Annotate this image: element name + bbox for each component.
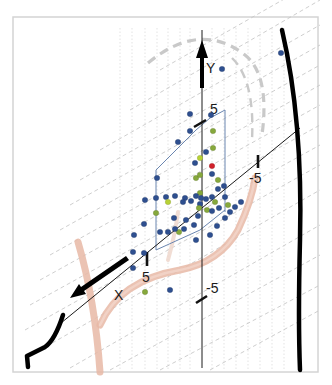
data-point	[172, 226, 178, 232]
data-point	[215, 177, 221, 183]
data-point	[196, 205, 202, 211]
data-point	[212, 199, 218, 205]
data-point	[141, 221, 147, 227]
data-point	[278, 50, 284, 56]
data-point	[157, 229, 163, 235]
data-point	[198, 195, 204, 201]
data-point	[209, 208, 215, 214]
data-point	[187, 128, 193, 134]
data-point	[183, 217, 189, 223]
data-point	[227, 209, 233, 215]
data-point	[225, 202, 231, 208]
data-point	[215, 186, 221, 192]
data-point	[153, 210, 159, 216]
data-point	[193, 237, 199, 243]
data-point	[222, 194, 228, 200]
x-tick-label-neg5: -5	[249, 170, 262, 186]
data-point	[180, 199, 186, 205]
data-point	[221, 183, 227, 189]
y-axis-label: Y	[206, 60, 216, 76]
data-point	[219, 66, 225, 72]
data-point	[172, 193, 178, 199]
data-point	[214, 223, 220, 229]
data-point	[207, 232, 213, 238]
data-point	[210, 128, 216, 134]
data-point	[175, 139, 181, 145]
data-point	[165, 229, 171, 235]
data-point	[191, 222, 197, 228]
data-point	[167, 287, 173, 293]
data-point	[209, 171, 215, 177]
data-point	[192, 160, 198, 166]
data-point	[204, 207, 210, 213]
x-tick-label-5: 5	[142, 269, 150, 285]
data-point	[188, 198, 194, 204]
data-point	[153, 195, 159, 201]
data-point	[216, 205, 222, 211]
data-point	[203, 196, 209, 202]
data-point	[197, 172, 203, 178]
data-point	[171, 215, 177, 221]
data-point	[238, 199, 244, 205]
data-point	[130, 265, 136, 271]
data-point	[209, 194, 215, 200]
data-point	[165, 199, 171, 205]
data-point	[195, 213, 201, 219]
data-point	[142, 289, 148, 295]
x-axis-label: X	[114, 287, 124, 303]
data-point	[232, 204, 238, 210]
data-point	[141, 250, 147, 256]
data-point	[187, 111, 193, 117]
data-point	[197, 155, 203, 161]
data-point	[208, 112, 214, 118]
data-point	[209, 163, 215, 169]
data-point	[203, 149, 209, 155]
data-point	[131, 232, 137, 238]
data-point	[154, 175, 160, 181]
data-point	[142, 197, 148, 203]
z-tick-label-neg5: -5	[206, 280, 219, 296]
data-point	[222, 215, 228, 221]
data-point	[181, 226, 187, 232]
scatter-3d-diagram: Y X 5 5 -5 -5	[0, 0, 332, 385]
data-point	[163, 194, 169, 200]
data-point	[210, 145, 216, 151]
data-point	[193, 193, 199, 199]
data-point	[130, 249, 136, 255]
